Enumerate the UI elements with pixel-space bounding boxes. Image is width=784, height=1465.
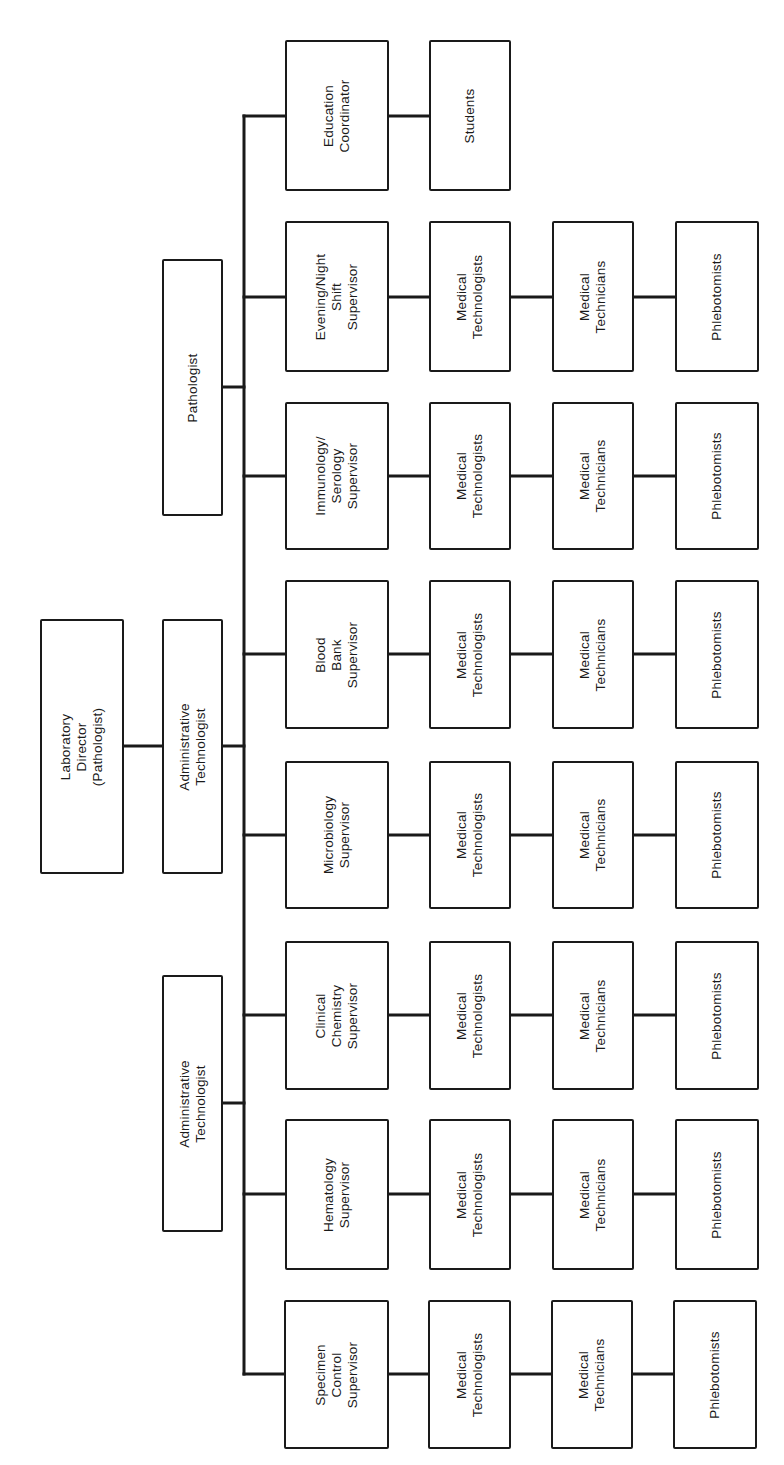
- microbiology-supervisor-box: Microbiology Supervisor: [285, 761, 389, 909]
- staff-label: Medical Technologists: [454, 434, 486, 518]
- supervisor-label: Education Coordinator: [321, 79, 353, 152]
- staff-label: Phlebotomists: [707, 1331, 723, 1418]
- pathologist-label: Pathologist: [185, 353, 201, 422]
- phlebotomists-box: Phlebotomists: [675, 761, 759, 909]
- evening-night-supervisor-box: Evening/Night Shift Supervisor: [285, 221, 389, 372]
- staff-label: Students: [462, 88, 478, 143]
- education-coordinator-box: Education Coordinator: [285, 40, 389, 191]
- administrative-technologist-label-2: Administrative Technologist: [177, 1060, 209, 1148]
- phlebotomists-box: Phlebotomists: [675, 402, 759, 550]
- medical-technicians-box: Medical Technicians: [552, 1119, 634, 1270]
- staff-label: Medical Technologists: [454, 1152, 486, 1236]
- staff-label: Phlebotomists: [709, 1151, 725, 1238]
- medical-technicians-box: Medical Technicians: [552, 761, 634, 909]
- medical-technicians-box: Medical Technicians: [552, 941, 634, 1090]
- medical-technicians-box: Medical Technicians: [551, 1300, 633, 1449]
- phlebotomists-box: Phlebotomists: [673, 1300, 757, 1449]
- staff-label: Phlebotomists: [709, 253, 725, 340]
- medical-technologists-box: Medical Technologists: [429, 941, 511, 1090]
- supervisor-label: Immunology/ Serology Supervisor: [313, 436, 361, 515]
- medical-technicians-box: Medical Technicians: [552, 580, 634, 729]
- supervisor-label: Evening/Night Shift Supervisor: [313, 253, 361, 340]
- staff-label: Medical Technicians: [577, 618, 609, 691]
- administrative-technologist-label-1: Administrative Technologist: [177, 703, 209, 791]
- medical-technologists-box: Medical Technologists: [429, 221, 511, 372]
- administrative-technologist-box-1: Administrative Technologist: [162, 619, 223, 874]
- staff-label: Phlebotomists: [709, 791, 725, 878]
- supervisor-label: Blood Bank Supervisor: [313, 621, 361, 688]
- hematology-supervisor-box: Hematology Supervisor: [285, 1119, 389, 1270]
- staff-label: Medical Technologists: [454, 973, 486, 1057]
- medical-technologists-box: Medical Technologists: [429, 402, 511, 550]
- students-box: Students: [429, 40, 511, 191]
- staff-label: Medical Technicians: [577, 1158, 609, 1231]
- clinical-chemistry-supervisor-box: Clinical Chemistry Supervisor: [285, 941, 389, 1090]
- medical-technicians-box: Medical Technicians: [552, 221, 634, 372]
- medical-technologists-box: Medical Technologists: [429, 580, 511, 729]
- pathologist-box: Pathologist: [162, 259, 223, 516]
- staff-label: Medical Technologists: [454, 612, 486, 696]
- laboratory-director-box: Laboratory Director (Pathologist): [40, 619, 124, 874]
- staff-label: Medical Technologists: [454, 793, 486, 877]
- supervisor-label: Clinical Chemistry Supervisor: [313, 982, 361, 1049]
- staff-label: Medical Technicians: [577, 979, 609, 1052]
- medical-technologists-box: Medical Technologists: [429, 1119, 511, 1270]
- phlebotomists-box: Phlebotomists: [675, 221, 759, 372]
- supervisor-label: Hematology Supervisor: [321, 1157, 353, 1231]
- immunology-serology-supervisor-box: Immunology/ Serology Supervisor: [285, 402, 389, 550]
- administrative-technologist-box-2: Administrative Technologist: [162, 975, 223, 1232]
- phlebotomists-box: Phlebotomists: [675, 1119, 759, 1270]
- medical-technicians-box: Medical Technicians: [552, 402, 634, 550]
- specimen-control-supervisor-box: Specimen Control Supervisor: [284, 1300, 389, 1449]
- medical-technologists-box: Medical Technologists: [428, 1300, 511, 1449]
- medical-technologists-box: Medical Technologists: [429, 761, 511, 909]
- staff-label: Medical Technologists: [454, 1332, 486, 1416]
- staff-label: Phlebotomists: [709, 972, 725, 1059]
- lab-org-chart: Laboratory Director (Pathologist) Admini…: [0, 0, 784, 1465]
- staff-label: Medical Technicians: [577, 799, 609, 872]
- phlebotomists-box: Phlebotomists: [675, 941, 759, 1090]
- supervisor-label: Specimen Control Supervisor: [313, 1341, 361, 1408]
- staff-label: Medical Technicians: [577, 440, 609, 513]
- staff-label: Medical Technicians: [576, 1338, 608, 1411]
- supervisor-label: Microbiology Supervisor: [321, 796, 353, 874]
- staff-label: Medical Technicians: [577, 260, 609, 333]
- phlebotomists-box: Phlebotomists: [675, 580, 759, 729]
- staff-label: Phlebotomists: [709, 611, 725, 698]
- staff-label: Medical Technologists: [454, 254, 486, 338]
- staff-label: Phlebotomists: [709, 432, 725, 519]
- laboratory-director-label: Laboratory Director (Pathologist): [58, 707, 106, 785]
- blood-bank-supervisor-box: Blood Bank Supervisor: [285, 580, 389, 729]
